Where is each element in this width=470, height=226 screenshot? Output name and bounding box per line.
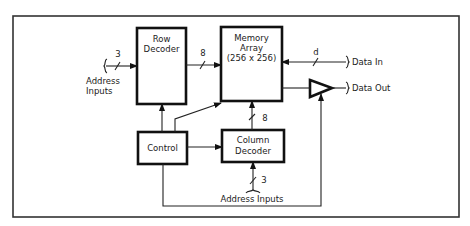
memory-array-label-3: (256 x 256) [227, 53, 277, 63]
row-decoder-block: Row Decoder [137, 28, 186, 104]
column-address-input-signal: 3 Address Inputs [221, 162, 285, 204]
data-in-width: d [313, 47, 318, 57]
row-decoder-label-1: Row [153, 34, 171, 44]
memory-block-diagram: Row Decoder Memory Array (256 x 256) Con… [0, 0, 470, 226]
brace-icon [246, 190, 260, 193]
control-block: Control [138, 132, 187, 164]
column-address-width: 3 [261, 175, 266, 185]
control-label: Control [147, 143, 178, 153]
row-to-array-bus: 8 [186, 48, 221, 69]
row-decoder-label-2: Decoder [144, 44, 180, 54]
brace-icon [346, 56, 349, 68]
memory-array-block: Memory Array (256 x 256) [221, 27, 282, 101]
data-in-signal: d Data In [282, 47, 383, 68]
row-address-label-1: Address [86, 76, 120, 86]
row-to-array-width: 8 [200, 48, 205, 58]
data-out-label: Data Out [352, 83, 391, 93]
data-out-signal: Data Out [282, 82, 391, 94]
column-to-array-bus: 8 [249, 101, 268, 130]
memory-array-label-2: Array [240, 43, 263, 53]
column-decoder-label-2: Decoder [235, 146, 271, 156]
column-to-array-width: 8 [262, 113, 267, 123]
control-to-memory-array [175, 103, 221, 132]
memory-array-label-1: Memory [234, 33, 269, 43]
column-address-label: Address Inputs [221, 194, 285, 204]
row-address-width: 3 [115, 49, 120, 59]
brace-icon [346, 82, 349, 94]
column-decoder-label-1: Column [237, 135, 270, 145]
row-address-input-signal: 3 Address Inputs [86, 49, 137, 96]
column-decoder-block: Column Decoder [222, 130, 284, 162]
data-in-label: Data In [352, 57, 383, 67]
row-address-label-2: Inputs [86, 86, 113, 96]
